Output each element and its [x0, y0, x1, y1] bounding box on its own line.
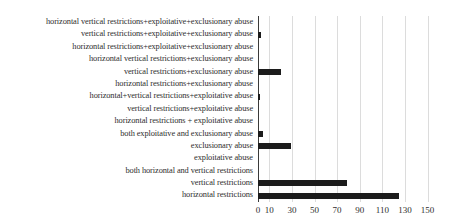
category-label: vertical restrictions [0, 177, 253, 189]
bar [258, 131, 263, 137]
x-tick-label: 30 [287, 205, 296, 215]
bar [258, 193, 399, 199]
bar [258, 94, 260, 100]
gridline [360, 16, 361, 202]
y-axis-line [258, 16, 259, 202]
gridline [292, 16, 293, 202]
category-label: exploitative abuse [0, 152, 253, 164]
category-label: horizontal restrictions+exploitative+exc… [0, 41, 253, 53]
category-label: both horizontal and vertical restriction… [0, 165, 253, 177]
gridline [405, 16, 406, 202]
category-label: horizontal restrictions+exclusionary abu… [0, 78, 253, 90]
category-label: vertical restrictions+exploitative abuse [0, 103, 253, 115]
chart-body: horizontal vertical restrictions+exploit… [0, 16, 453, 202]
bar [258, 69, 281, 75]
x-tick-label: 110 [376, 205, 389, 215]
bar-chart-figure: horizontal vertical restrictions+exploit… [0, 0, 458, 224]
bar [258, 143, 291, 149]
plot-area: 01030507090110130150 [258, 16, 453, 202]
x-tick-label: 90 [355, 205, 364, 215]
gridline [269, 16, 270, 202]
x-tick-label: 10 [265, 205, 274, 215]
category-label: horizontal restrictions [0, 189, 253, 201]
category-label: horizontal restrictions + exploitative a… [0, 115, 253, 127]
y-axis-category-labels: horizontal vertical restrictions+exploit… [0, 16, 258, 202]
category-label: horizontal vertical restrictions+exploit… [0, 16, 253, 28]
gridline [428, 16, 429, 202]
category-label: horizontal vertical restrictions+exclusi… [0, 53, 253, 65]
category-label: both exploitative and exclusionary abuse [0, 128, 253, 140]
gridline [315, 16, 316, 202]
bar [258, 180, 347, 186]
x-tick-label: 70 [333, 205, 342, 215]
category-label: exclusionary abuse [0, 140, 253, 152]
bar [258, 32, 261, 38]
x-tick-label: 150 [421, 205, 435, 215]
x-tick-label: 50 [310, 205, 319, 215]
x-tick-label: 130 [398, 205, 412, 215]
category-label: horizontal+vertical restrictions+exploit… [0, 90, 253, 102]
category-label: vertical restrictions+exploitative+exclu… [0, 28, 253, 40]
gridline [382, 16, 383, 202]
x-tick-label: 0 [256, 205, 261, 215]
gridline [337, 16, 338, 202]
category-label: vertical restrictions+exclusionary abuse [0, 66, 253, 78]
